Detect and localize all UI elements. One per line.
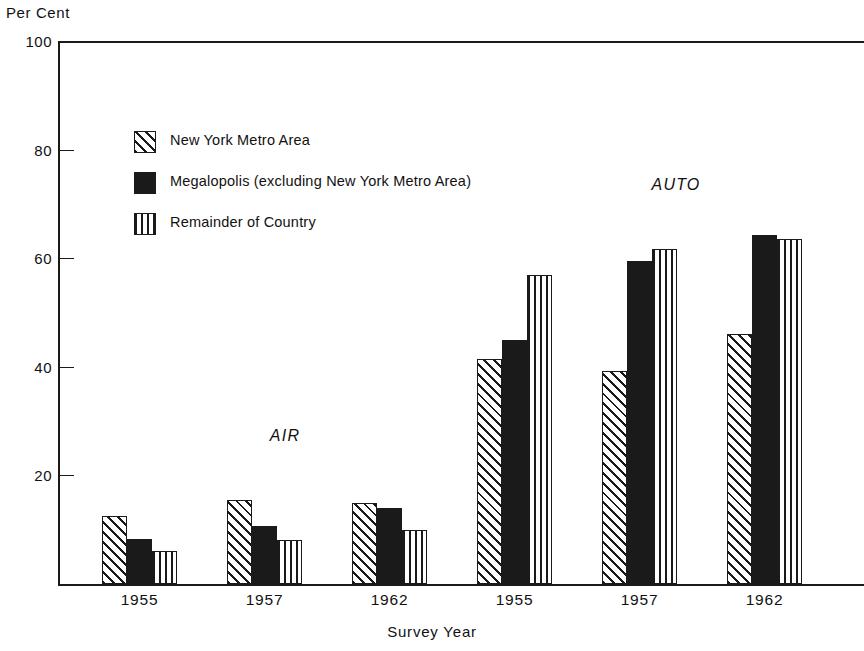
bar bbox=[152, 551, 177, 584]
bar bbox=[252, 526, 277, 584]
bar bbox=[777, 239, 802, 584]
bar bbox=[627, 261, 652, 584]
group-annotation-air: AIR bbox=[270, 427, 300, 445]
bar bbox=[352, 503, 377, 584]
bar-chart: Per Cent 20406080100 New York Metro Area… bbox=[0, 0, 864, 651]
bar bbox=[602, 371, 627, 584]
x-axis-title: Survey Year bbox=[387, 623, 477, 640]
bar bbox=[727, 334, 752, 584]
bar bbox=[752, 235, 777, 584]
bar bbox=[477, 359, 502, 584]
group-annotation-auto: AUTO bbox=[652, 176, 701, 194]
bar bbox=[127, 539, 152, 584]
bar bbox=[652, 249, 677, 584]
x-axis-tick-label: 1962 bbox=[746, 591, 784, 609]
bars-layer bbox=[0, 0, 864, 584]
x-axis-line bbox=[58, 584, 864, 586]
x-axis-tick-label: 1957 bbox=[621, 591, 659, 609]
bar bbox=[402, 530, 427, 584]
x-axis-tick-label: 1955 bbox=[121, 591, 159, 609]
bar bbox=[527, 275, 552, 585]
bar bbox=[502, 340, 527, 584]
x-axis-tick-label: 1955 bbox=[496, 591, 534, 609]
bar bbox=[227, 500, 252, 584]
bar bbox=[277, 540, 302, 584]
x-axis-tick-label: 1957 bbox=[246, 591, 284, 609]
bar bbox=[102, 516, 127, 584]
x-axis-tick-label: 1962 bbox=[371, 591, 409, 609]
bar bbox=[377, 508, 402, 584]
